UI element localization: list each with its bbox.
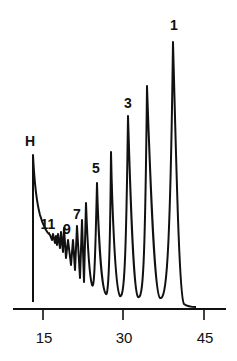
x-tick-label-30: 30 bbox=[116, 329, 133, 346]
peak-label-9: 9 bbox=[63, 221, 71, 237]
chromatogram-chart: 15 30 45 H 11 9 7 5 3 1 bbox=[0, 0, 237, 361]
peak-label-11: 11 bbox=[41, 216, 56, 232]
peak-label-H: H bbox=[25, 133, 35, 149]
peak-label-3: 3 bbox=[124, 95, 132, 111]
x-tick-label-45: 45 bbox=[197, 329, 214, 346]
chromatogram-trace bbox=[33, 42, 196, 307]
x-tick-label-15: 15 bbox=[36, 329, 53, 346]
peak-label-5: 5 bbox=[92, 160, 100, 176]
peak-label-7: 7 bbox=[73, 206, 81, 222]
peak-label-1: 1 bbox=[170, 17, 178, 33]
